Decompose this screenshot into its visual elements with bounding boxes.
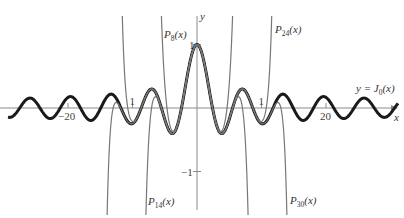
curve-p30-x [8, 45, 398, 218]
y-tick-label: −1 [181, 166, 193, 178]
series-label: P8(x) [163, 28, 187, 43]
x-tick-label: 1 [130, 95, 136, 107]
x-tick-label: 20 [320, 110, 332, 122]
x-tick-label: 1 [259, 95, 265, 107]
series-label: P24(x) [274, 23, 302, 38]
series-label: P14(x) [147, 195, 175, 210]
series-label: y = J0(x) [355, 82, 395, 97]
x-tick-label: −20 [58, 110, 76, 122]
curve-p14-x [8, 45, 398, 218]
series-label: P30(x) [289, 194, 317, 209]
x-axis-label: x [393, 111, 399, 123]
bessel-taylor-chart: x y −2020111−1 y = J0(x)P8(x)P14(x)P24(x… [0, 0, 404, 217]
y-axis-label: y [199, 10, 205, 22]
